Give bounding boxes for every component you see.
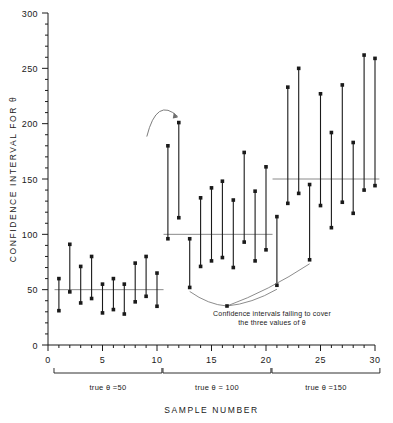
interval-endpoint-marker (79, 301, 83, 305)
interval-endpoint-marker (144, 255, 148, 259)
y-tick-label: 100 (22, 230, 38, 240)
interval-endpoint-marker (253, 259, 257, 263)
interval-endpoint-marker (101, 282, 105, 286)
interval-endpoint-marker (297, 192, 301, 196)
interval-endpoint-marker (308, 183, 312, 187)
interval-endpoint-marker (286, 202, 290, 206)
interval-endpoint-marker (373, 184, 377, 188)
interval-endpoint-marker (232, 198, 236, 202)
interval-endpoint-marker (101, 311, 105, 315)
interval-endpoint-marker (264, 165, 268, 169)
interval-endpoint-marker (210, 259, 214, 263)
x-tick-label: 20 (261, 355, 272, 365)
y-tick-label: 200 (22, 119, 38, 129)
x-tick-label: 15 (206, 355, 217, 365)
interval-endpoint-marker (112, 277, 116, 281)
x-tick-label: 30 (370, 355, 381, 365)
interval-endpoint-marker (90, 297, 94, 301)
interval-endpoint-marker (221, 256, 225, 260)
interval-endpoint-marker (351, 141, 355, 145)
group-bracket (272, 368, 380, 373)
group-label: true θ =50 (89, 383, 126, 392)
interval-endpoint-marker (79, 265, 83, 269)
y-tick-label: 150 (22, 175, 38, 185)
group-label: true θ = 100 (195, 383, 239, 392)
interval-endpoint-marker (341, 83, 345, 87)
interval-endpoint-marker (188, 237, 192, 241)
interval-endpoint-marker (199, 265, 203, 269)
interval-endpoint-marker (319, 204, 323, 208)
interval-endpoint-marker (319, 92, 323, 96)
group-bracket (163, 368, 271, 373)
interval-endpoint-marker (275, 215, 279, 219)
interval-endpoint-marker (242, 151, 246, 155)
interval-endpoint-marker (330, 226, 334, 230)
group-bracket (54, 368, 162, 373)
interval-endpoint-marker (112, 308, 116, 312)
interval-endpoint-marker (199, 196, 203, 200)
x-tick-label: 25 (315, 355, 326, 365)
annotation-leader-line (227, 264, 310, 306)
interval-endpoint-marker (330, 131, 334, 135)
y-tick-label: 0 (33, 341, 38, 351)
y-tick-label: 250 (22, 64, 38, 74)
y-axis-title: CONFIDENCE INTERVAL FOR θ (8, 96, 18, 262)
x-axis-title: SAMPLE NUMBER (164, 405, 258, 415)
interval-endpoint-marker (362, 188, 366, 192)
interval-endpoint-marker (166, 144, 170, 148)
interval-endpoint-marker (264, 248, 268, 252)
interval-endpoint-marker (68, 242, 72, 246)
chart-svg: 050100150200250300051015202530SAMPLE NUM… (0, 0, 393, 423)
interval-endpoint-marker (341, 200, 345, 204)
x-tick-label: 5 (100, 355, 105, 365)
interval-endpoint-marker (297, 67, 301, 71)
y-tick-label: 50 (27, 285, 38, 295)
annotation-leader-line (190, 291, 227, 306)
x-tick-label: 0 (45, 355, 50, 365)
interval-endpoint-marker (90, 255, 94, 259)
interval-endpoint-marker (68, 290, 72, 294)
interval-endpoint-marker (57, 277, 61, 281)
interval-endpoint-marker (188, 286, 192, 290)
interval-endpoint-marker (133, 300, 137, 304)
interval-endpoint-marker (362, 53, 366, 57)
interval-endpoint-marker (253, 189, 257, 193)
interval-endpoint-marker (123, 312, 127, 316)
interval-endpoint-marker (177, 216, 181, 220)
interval-endpoint-marker (210, 186, 214, 190)
annotation-line-1: Confidence intervals failing to cover (213, 310, 331, 318)
annotation-hub-marker (225, 304, 229, 308)
interval-endpoint-marker (351, 212, 355, 216)
interval-endpoint-marker (221, 179, 225, 183)
interval-endpoint-marker (177, 121, 181, 125)
group-label: true θ =150 (305, 383, 346, 392)
x-tick-label: 10 (152, 355, 163, 365)
interval-endpoint-marker (123, 282, 127, 286)
interval-endpoint-marker (373, 57, 377, 61)
interval-endpoint-marker (242, 240, 246, 244)
interval-endpoint-marker (286, 85, 290, 89)
interval-endpoint-marker (232, 266, 236, 270)
interval-endpoint-marker (133, 261, 137, 265)
interval-endpoint-marker (155, 304, 159, 308)
interval-endpoint-marker (155, 271, 159, 275)
interval-endpoint-marker (308, 258, 312, 262)
annotation-line-2: the three values of θ (238, 319, 306, 326)
confidence-interval-chart: 050100150200250300051015202530SAMPLE NUM… (0, 0, 393, 423)
interval-endpoint-marker (144, 295, 148, 299)
interval-endpoint-marker (166, 237, 170, 241)
y-tick-label: 300 (22, 9, 38, 19)
arc-pointer-sample-12 (147, 110, 178, 137)
interval-endpoint-marker (57, 309, 61, 313)
